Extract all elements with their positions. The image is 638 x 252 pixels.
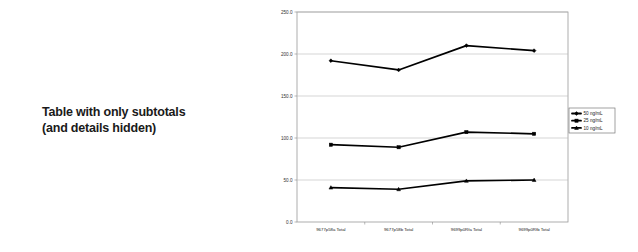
y-tick-label: 250.0 [281, 10, 293, 15]
chart-legend[interactable]: 50 ng/mL25 ng/mL10 ng/mL [569, 108, 615, 133]
y-tick-label: 0.0 [286, 220, 293, 225]
legend-entry-label[interactable]: 25 ng/mL [584, 118, 604, 123]
chart-canvas: 0.050.0100.0150.0200.0250.0 9677p58a Tot… [270, 0, 638, 252]
x-category-label: 9699p0Rfb Total [519, 227, 550, 232]
data-point-marker [533, 132, 536, 135]
y-tick-label: 100.0 [281, 136, 293, 141]
y-tick-label: 200.0 [281, 52, 293, 57]
line-chart: 0.050.0100.0150.0200.0250.0 9677p58a Tot… [270, 0, 638, 252]
x-category-label: 9677p58b Total [384, 227, 413, 232]
caption-block: Table with only subtotals (and details h… [42, 104, 252, 136]
plot-frame [297, 12, 568, 222]
legend-marker [575, 119, 578, 122]
legend-entry-label[interactable]: 50 ng/mL [584, 111, 604, 116]
caption-line-1: Table with only subtotals [42, 104, 252, 120]
data-point-marker [329, 143, 332, 146]
x-category-label: 9699p0Rfa Total [451, 227, 482, 232]
caption-line-2: (and details hidden) [42, 120, 252, 136]
y-tick-label: 50.0 [284, 178, 293, 183]
x-axis: 9677p58a Total9677p58b Total9699p0Rfa To… [316, 222, 550, 232]
x-category-label: 9677p58a Total [316, 227, 345, 232]
data-point-marker [465, 131, 468, 134]
data-point-marker [397, 146, 400, 149]
y-axis: 0.050.0100.0150.0200.0250.0 [281, 10, 297, 225]
y-tick-label: 150.0 [281, 94, 293, 99]
legend-entry-label[interactable]: 10 ng/mL [584, 126, 604, 131]
